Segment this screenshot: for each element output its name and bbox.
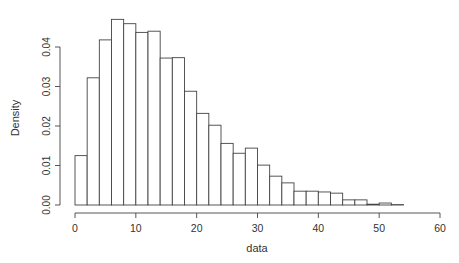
histogram-bar: [318, 192, 330, 205]
y-tick-label: 0.04: [41, 37, 52, 57]
x-tick-label: 0: [72, 222, 78, 234]
x-tick-label: 50: [373, 222, 385, 234]
x-tick-label: 30: [252, 222, 264, 234]
histogram-bar: [112, 19, 124, 205]
histogram-bar: [99, 40, 111, 205]
histogram-bar: [258, 165, 270, 205]
x-tick-label: 10: [130, 222, 142, 234]
x-axis-label: data: [246, 242, 268, 254]
histogram-bar: [197, 113, 209, 205]
histogram-bar: [367, 204, 379, 205]
histogram-bar: [245, 148, 257, 205]
histogram-bar: [185, 91, 197, 205]
histogram-bar: [148, 31, 160, 205]
histogram-bar: [221, 143, 233, 205]
histogram-bar: [136, 32, 148, 205]
x-tick-label: 20: [191, 222, 203, 234]
y-tick-label: 0.01: [41, 155, 52, 175]
histogram-bar: [343, 200, 355, 205]
x-tick-label: 60: [434, 222, 446, 234]
histogram-bars: [75, 19, 404, 205]
histogram-chart: 0102030405060 0.000.010.020.030.04 data …: [0, 0, 459, 263]
histogram-bar: [172, 58, 184, 205]
y-axis-label: Density: [9, 99, 21, 136]
histogram-bar: [270, 176, 282, 205]
y-tick-label: 0.02: [41, 116, 52, 136]
histogram-bar: [124, 24, 136, 205]
histogram-bar: [209, 125, 221, 205]
histogram-bar: [306, 191, 318, 205]
y-axis: 0.000.010.020.030.04: [41, 37, 60, 215]
histogram-bar: [160, 58, 172, 205]
x-axis: 0102030405060: [72, 213, 446, 234]
histogram-bar: [355, 200, 367, 205]
y-tick-label: 0.00: [41, 195, 52, 215]
x-tick-label: 40: [312, 222, 324, 234]
histogram-bar: [75, 156, 87, 205]
histogram-bar: [379, 203, 391, 205]
histogram-bar: [282, 183, 294, 205]
histogram-bar: [294, 191, 306, 205]
y-tick-label: 0.03: [41, 76, 52, 96]
histogram-bar: [331, 193, 343, 205]
histogram-bar: [233, 153, 245, 205]
histogram-bar: [87, 78, 99, 205]
